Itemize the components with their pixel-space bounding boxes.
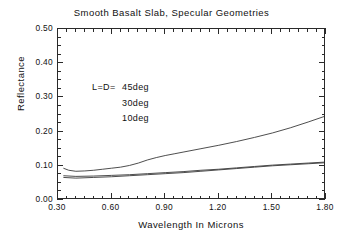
x-tick-label: 1.20 (209, 202, 227, 212)
x-tick-bottom (137, 196, 138, 200)
x-tick-top (298, 28, 299, 32)
y-tick-right (322, 122, 326, 123)
y-tick-label: 0.50 (35, 23, 53, 33)
legend-label: 30deg (122, 98, 149, 108)
y-tick-right (322, 148, 326, 149)
y-tick-left (57, 131, 63, 132)
x-tick-label: 0.30 (48, 202, 66, 212)
x-tick-bottom (120, 196, 121, 200)
y-tick-right (319, 28, 325, 29)
y-tick-label: 0.20 (35, 126, 53, 136)
x-tick-bottom (155, 196, 156, 200)
x-tick-top (84, 28, 85, 32)
x-tick-bottom (173, 196, 174, 200)
y-tick-right (322, 54, 326, 55)
y-tick-right (322, 173, 326, 174)
x-tick-bottom (289, 196, 290, 200)
legend-label: 10deg (122, 113, 149, 123)
x-tick-top (316, 28, 317, 32)
y-tick-right (322, 79, 326, 80)
x-tick-top (164, 28, 165, 34)
x-tick-top (66, 28, 67, 32)
y-tick-right (322, 45, 326, 46)
x-tick-top (245, 28, 246, 32)
y-tick-left (57, 88, 61, 89)
x-tick-bottom (164, 193, 165, 199)
x-tick-bottom (298, 196, 299, 200)
x-tick-bottom (254, 196, 255, 200)
y-tick-left (57, 199, 63, 200)
x-tick-top (128, 28, 129, 32)
x-tick-bottom (191, 196, 192, 200)
x-tick-bottom (245, 196, 246, 200)
x-tick-top (289, 28, 290, 32)
x-tick-top (307, 28, 308, 32)
x-tick-top (325, 28, 326, 34)
x-tick-label: 1.50 (263, 202, 281, 212)
y-tick-right (322, 88, 326, 89)
legend-prefix: L=D= (92, 80, 122, 96)
x-tick-bottom (325, 193, 326, 199)
y-tick-right (322, 190, 326, 191)
x-tick-bottom (316, 196, 317, 200)
x-tick-bottom (146, 196, 147, 200)
y-tick-right (319, 62, 325, 63)
x-tick-bottom (209, 196, 210, 200)
x-tick-bottom (75, 196, 76, 200)
x-tick-bottom (84, 196, 85, 200)
x-tick-bottom (307, 196, 308, 200)
y-tick-right (319, 199, 325, 200)
x-axis-tick-labels: 0.300.600.901.201.501.80 (0, 202, 343, 216)
legend-item-45deg: L=D=45deg (92, 80, 149, 96)
y-tick-right (322, 71, 326, 72)
x-tick-top (137, 28, 138, 32)
y-tick-right (322, 114, 326, 115)
y-tick-left (57, 28, 63, 29)
x-tick-label: 0.90 (155, 202, 173, 212)
y-tick-left (57, 45, 61, 46)
legend-item-10deg: 10deg (92, 111, 149, 127)
x-tick-top (280, 28, 281, 32)
x-tick-bottom (271, 193, 272, 199)
x-tick-top (209, 28, 210, 32)
y-tick-left (57, 96, 63, 97)
y-tick-left (57, 165, 63, 166)
x-tick-top (218, 28, 219, 34)
x-tick-bottom (102, 196, 103, 200)
x-tick-bottom (280, 196, 281, 200)
x-tick-top (102, 28, 103, 32)
y-tick-left (57, 139, 61, 140)
x-tick-top (262, 28, 263, 32)
x-tick-top (146, 28, 147, 32)
x-tick-bottom (218, 193, 219, 199)
x-tick-bottom (93, 196, 94, 200)
x-tick-top (182, 28, 183, 32)
x-tick-top (155, 28, 156, 32)
x-tick-top (93, 28, 94, 32)
x-tick-top (200, 28, 201, 32)
x-tick-bottom (111, 193, 112, 199)
x-tick-label: 0.60 (102, 202, 120, 212)
y-tick-label: 0.10 (35, 160, 53, 170)
chart-figure: Smooth Basalt Slab, Specular Geometries … (0, 0, 343, 246)
y-tick-left (57, 122, 61, 123)
legend-item-30deg: 30deg (92, 96, 149, 112)
y-tick-right (322, 105, 326, 106)
y-tick-left (57, 105, 61, 106)
x-tick-bottom (66, 196, 67, 200)
x-tick-label: 1.80 (316, 202, 334, 212)
x-tick-top (254, 28, 255, 32)
y-tick-right (322, 182, 326, 183)
x-tick-top (75, 28, 76, 32)
y-tick-right (322, 156, 326, 157)
x-tick-bottom (227, 196, 228, 200)
y-tick-right (322, 139, 326, 140)
y-tick-left (57, 173, 61, 174)
y-tick-left (57, 37, 61, 38)
y-tick-label: 0.40 (35, 57, 53, 67)
x-tick-bottom (128, 196, 129, 200)
y-tick-left (57, 114, 61, 115)
x-axis-title: Wavelength In Microns (57, 219, 325, 230)
x-tick-top (271, 28, 272, 34)
x-tick-bottom (182, 196, 183, 200)
